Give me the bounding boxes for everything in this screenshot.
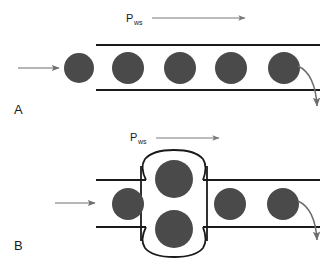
panel-a-letter: A — [14, 102, 23, 117]
pressure-subscript: ws — [137, 138, 147, 145]
figure-container: P ws A — [0, 0, 330, 264]
pressure-subscript: ws — [133, 19, 143, 26]
cell-particle — [112, 52, 144, 84]
cell-particle — [214, 188, 246, 220]
pressure-symbol: P — [126, 12, 133, 24]
pressure-symbol: P — [130, 131, 137, 143]
cell-particle — [267, 188, 299, 220]
cell-particle — [112, 188, 144, 220]
cell-particle — [64, 53, 94, 83]
cell-particle — [268, 52, 300, 84]
diagram-canvas: P ws A — [0, 0, 330, 264]
panel-b-letter: B — [14, 238, 23, 253]
cell-particle-bulge-upper — [155, 160, 193, 198]
cell-particle — [215, 52, 247, 84]
cell-particle-bulge-lower — [155, 210, 193, 248]
cell-particle — [164, 52, 196, 84]
